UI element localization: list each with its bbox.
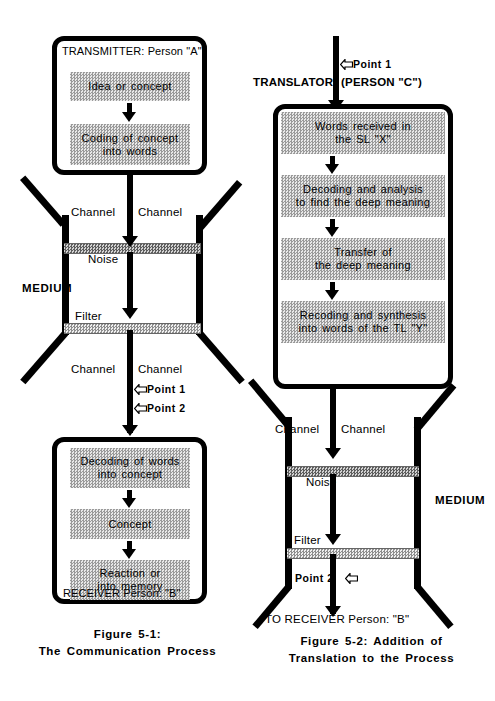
medium-trunk-arrow-filter	[122, 308, 138, 319]
point-1-marker: Point 1	[134, 383, 186, 395]
receiver-step-1-line-1: Decoding of words	[80, 455, 179, 468]
medium-wall-left	[285, 417, 292, 589]
medium-wall-lower-right	[415, 585, 454, 629]
transmitter-step-1-line-1: Idea or concept	[88, 80, 171, 93]
channel-label-bottom-right: Channel	[138, 363, 182, 375]
point-1-label: Point 1	[353, 58, 392, 70]
medium-wall-right	[414, 417, 421, 589]
channel-label-right: Channel	[341, 423, 385, 435]
filter-bar	[287, 548, 419, 559]
point-2-label: Point 2	[147, 402, 186, 414]
channel-label-bottom-left: Channel	[71, 363, 115, 375]
medium-trunk-arrow-noise	[325, 448, 341, 459]
medium-trunk-arrow-noise	[122, 236, 138, 247]
point-1-label: Point 1	[147, 383, 186, 395]
translator-step-1-line-1: Words received in	[315, 120, 411, 133]
receiver-step-2: Concept	[70, 509, 190, 539]
translator-step-2-line-2: to find the deep meaning	[296, 196, 430, 209]
hollow-left-arrow-icon	[345, 573, 358, 584]
medium-wall-upper-left	[20, 175, 66, 226]
to-receiver-label: TO RECEIVER Person: "B"	[265, 613, 409, 625]
translator-title-left: TRANSLATOR	[253, 76, 333, 88]
receiver-step-3-line-1: Reaction or	[99, 567, 160, 580]
transmitter-step-2: Coding of concept into words	[70, 124, 190, 165]
point-2-marker: Point 2	[295, 572, 358, 584]
transmitter-step-2-line-1: Coding of concept	[82, 132, 179, 145]
medium-trunk-arrow-filter	[325, 534, 341, 545]
translator-step-2-line-1: Decoding and analysis	[303, 183, 423, 196]
channel-label-top-left: Channel	[71, 206, 115, 218]
medium-wall-lower-right	[197, 331, 245, 385]
medium-wall-left	[62, 215, 69, 335]
medium-trunk-arrow-receiver	[122, 425, 138, 436]
figure-5-1-caption: Figure 5-1: The Communication Process	[0, 626, 255, 659]
transmitter-step-1: Idea or concept	[70, 72, 190, 101]
noise-label: Noise	[306, 476, 336, 488]
receiver-arrow-head-2	[122, 549, 136, 559]
medium-trunk-upper	[127, 175, 133, 241]
figure-5-2-translation-process: Point 1 TRANSLATOR (PERSON "C") Words re…	[248, 0, 495, 701]
figure-5-1-caption-line-1: Figure 5-1:	[0, 626, 255, 643]
translator-step-2: Decoding and analysis to find the deep m…	[281, 175, 445, 217]
figure-5-1-caption-line-2: The Communication Process	[0, 643, 255, 660]
transmitter-arrow-head-1	[122, 112, 136, 122]
medium-wall-upper-right	[196, 180, 242, 231]
medium-trunk-upper	[330, 389, 336, 454]
medium-wall-lower-left	[20, 331, 68, 385]
translator-step-3: Transfer of the deep meaning	[281, 238, 445, 280]
translator-arrow-head-2	[325, 227, 339, 237]
medium-wall-right	[196, 215, 203, 335]
figure-5-2-caption-line-1: Figure 5-2: Addition of	[248, 633, 495, 650]
point-2-marker: Point 2	[134, 402, 186, 414]
medium-trunk-lower	[330, 554, 336, 614]
hollow-left-arrow-icon	[134, 403, 147, 414]
filter-label: Filter	[75, 310, 102, 322]
figure-5-1-communication-process: TRANSMITTER: Person "A" Idea or concept …	[0, 0, 255, 701]
translator-arrow-head-1	[325, 164, 339, 174]
receiver-title: RECEIVER Person: "B"	[63, 587, 180, 599]
channel-label-top-right: Channel	[138, 206, 182, 218]
receiver-step-1: Decoding of words into concept	[70, 448, 190, 488]
receiver-step-2-line-1: Concept	[108, 518, 151, 531]
hollow-left-arrow-icon	[134, 384, 147, 395]
hollow-left-arrow-icon	[340, 59, 353, 70]
transmitter-step-2-line-2: into words	[103, 145, 158, 158]
figure-5-2-caption-line-2: Translation to the Process	[248, 650, 495, 667]
translator-step-4-line-1: Recoding and synthesis	[300, 309, 426, 322]
medium-label: MEDIUM	[22, 282, 72, 294]
receiver-step-1-line-2: into concept	[98, 468, 162, 481]
filter-label: Filter	[294, 534, 321, 546]
point-2-label: Point 2	[295, 572, 334, 584]
translator-step-1: Words received in the SL "X"	[281, 112, 445, 154]
receiver-arrow-head-1	[122, 498, 136, 508]
medium-label: MEDIUM	[435, 494, 485, 506]
medium-trunk-middle	[127, 252, 133, 314]
figure-5-2-caption: Figure 5-2: Addition of Translation to t…	[248, 633, 495, 666]
translator-step-4: Recoding and synthesis into words of the…	[281, 301, 445, 343]
translator-arrow-head-3	[325, 290, 339, 300]
translator-step-4-line-2: into words of the TL "Y"	[299, 322, 428, 335]
translator-step-3-line-2: the deep meaning	[315, 259, 411, 272]
translator-title-right: (PERSON "C")	[341, 76, 422, 88]
medium-trunk-lower	[127, 330, 133, 433]
translator-input-trunk	[333, 36, 339, 108]
noise-label: Noise	[88, 253, 118, 265]
translator-step-3-line-1: Transfer of	[334, 246, 392, 259]
channel-label-left: Channel	[275, 423, 319, 435]
transmitter-title: TRANSMITTER: Person "A"	[62, 45, 202, 57]
point-1-marker: Point 1	[340, 58, 392, 70]
translator-step-1-line-2: the SL "X"	[335, 133, 391, 146]
